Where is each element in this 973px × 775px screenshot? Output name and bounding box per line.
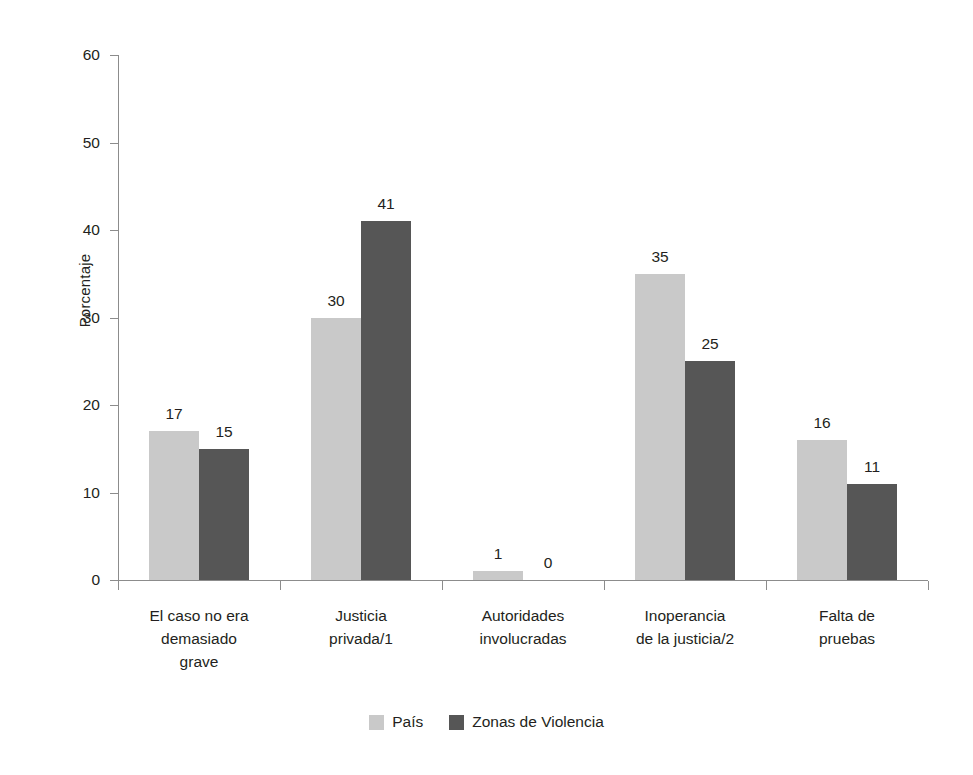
- bar-value-label: 16: [787, 414, 857, 432]
- y-axis-tick-label-wrap: 10: [44, 493, 100, 494]
- x-axis-line: [118, 580, 928, 581]
- x-axis-tick: [280, 581, 281, 590]
- x-axis-category-label: Justiciaprivada/1: [280, 604, 442, 650]
- x-axis-category-label-line: Inoperancia: [604, 604, 766, 627]
- x-axis-category-label-line: privada/1: [280, 627, 442, 650]
- y-axis-tick-label-wrap: 20: [44, 405, 100, 406]
- x-axis-tick: [118, 581, 119, 590]
- x-axis-tick: [442, 581, 443, 590]
- y-axis-line: [118, 55, 119, 581]
- x-axis-category-label: Autoridadesinvolucradas: [442, 604, 604, 650]
- bar: [149, 431, 199, 580]
- legend-swatch-icon: [449, 715, 464, 730]
- y-axis-tick: [110, 318, 118, 319]
- bar: [473, 571, 523, 580]
- y-axis-tick-label: 10: [54, 484, 100, 502]
- y-axis-tick-label: 0: [54, 571, 100, 589]
- y-axis-tick: [110, 405, 118, 406]
- x-axis-tick: [766, 581, 767, 590]
- y-axis-tick-label-wrap: 60: [44, 55, 100, 56]
- bar-value-label: 17: [139, 405, 209, 423]
- y-axis-tick-label-wrap: 50: [44, 143, 100, 144]
- bar-value-label: 25: [675, 335, 745, 353]
- y-axis-tick-label-wrap: 40: [44, 230, 100, 231]
- legend-swatch-icon: [369, 715, 384, 730]
- y-axis-tick-label: 30: [54, 309, 100, 327]
- bar: [199, 449, 249, 580]
- x-axis-category-label-line: Falta de: [766, 604, 928, 627]
- y-axis-tick: [110, 55, 118, 56]
- y-axis-tick-label: 50: [54, 134, 100, 152]
- bar: [847, 484, 897, 580]
- legend-entry: País: [369, 713, 423, 731]
- y-axis-tick-label-wrap: 30: [44, 318, 100, 319]
- bar: [635, 274, 685, 580]
- y-axis-tick-label: 40: [54, 221, 100, 239]
- bar-value-label: 15: [189, 423, 259, 441]
- legend-label: País: [392, 713, 423, 731]
- x-axis-category-label: Inoperanciade la justicia/2: [604, 604, 766, 650]
- x-axis-tick: [604, 581, 605, 590]
- bar-value-label: 11: [837, 458, 907, 476]
- y-axis-tick-label-wrap: 0: [44, 580, 100, 581]
- y-axis-title: Porcentaje: [76, 221, 93, 361]
- bar-value-label: 35: [625, 248, 695, 266]
- legend-entry: Zonas de Violencia: [449, 713, 604, 731]
- x-axis-category-label-line: El caso no era: [118, 604, 280, 627]
- x-axis-category-label: El caso no erademasiadograve: [118, 604, 280, 673]
- x-axis-category-label-line: Justicia: [280, 604, 442, 627]
- bar-value-label: 30: [301, 292, 371, 310]
- y-axis-tick-label: 60: [54, 46, 100, 64]
- bar: [311, 318, 361, 581]
- x-axis-category-label-line: demasiado: [118, 627, 280, 650]
- y-axis-tick-label: 20: [54, 396, 100, 414]
- bar-value-label: 41: [351, 195, 421, 213]
- bar: [685, 361, 735, 580]
- chart-legend: PaísZonas de Violencia: [0, 713, 973, 731]
- x-axis-category-label-line: involucradas: [442, 627, 604, 650]
- bar: [361, 221, 411, 580]
- legend-label: Zonas de Violencia: [472, 713, 604, 731]
- x-axis-category-label: Falta depruebas: [766, 604, 928, 650]
- x-axis-category-label-line: de la justicia/2: [604, 627, 766, 650]
- y-axis-tick: [110, 580, 118, 581]
- y-axis-tick: [110, 493, 118, 494]
- x-axis-category-label-line: pruebas: [766, 627, 928, 650]
- y-axis-tick: [110, 143, 118, 144]
- bar-chart: Porcentaje 6050403020100 173013516154102…: [0, 0, 973, 775]
- bar-value-label: 0: [513, 554, 583, 572]
- y-axis-tick: [110, 230, 118, 231]
- x-axis-tick: [928, 581, 929, 590]
- x-axis-category-label-line: grave: [118, 650, 280, 673]
- x-axis-category-label-line: Autoridades: [442, 604, 604, 627]
